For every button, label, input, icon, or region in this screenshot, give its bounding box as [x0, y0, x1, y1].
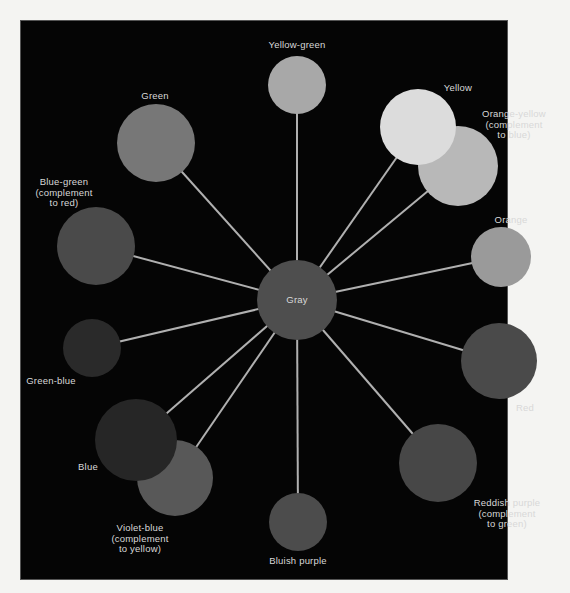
label-line: Green-blue — [26, 375, 76, 386]
node-green — [117, 104, 195, 182]
label-line: Yellow — [444, 82, 472, 93]
node-bluish-purple — [269, 493, 327, 551]
label-line: to yellow) — [119, 543, 161, 554]
label-blue-green: Blue-green(complementto red) — [35, 176, 92, 208]
label-line: to red) — [50, 197, 79, 208]
label-line: Reddish purple — [474, 497, 541, 508]
label-bluish-purple: Bluish purple — [269, 555, 327, 566]
label-red: Red — [516, 402, 534, 413]
node-green-blue — [63, 319, 121, 377]
label-yellow-green: Yellow-green — [269, 39, 326, 50]
label-green-blue: Green-blue — [26, 375, 76, 386]
node-yellow-green — [268, 56, 326, 114]
label-gray: Gray — [286, 294, 307, 305]
label-line: to green) — [487, 518, 527, 529]
label-orange: Orange — [495, 214, 528, 225]
label-line: to blue) — [497, 129, 530, 140]
label-line: (complement — [478, 508, 535, 519]
label-line: (complement — [35, 187, 92, 198]
label-yellow: Yellow — [444, 82, 472, 93]
label-line: (complement — [111, 533, 168, 544]
node-orange — [471, 227, 531, 287]
label-blue: Blue — [78, 461, 98, 472]
node-blue — [95, 399, 177, 481]
label-line: Blue-green — [40, 176, 88, 187]
label-line: Orange-yellow — [482, 108, 546, 119]
label-reddish-purple: Reddish purple(complementto green) — [474, 497, 541, 529]
label-line: Green — [141, 90, 168, 101]
node-red — [461, 323, 537, 399]
center-node: Gray — [257, 260, 337, 340]
label-line: (complement — [485, 119, 542, 130]
label-orange-yellow: Orange-yellow(complementto blue) — [482, 108, 546, 140]
label-violet-blue: Violet-blue(complementto yellow) — [111, 522, 168, 554]
label-line: Bluish purple — [269, 555, 327, 566]
color-complement-diagram: Gray Yellow-greenYellowOrange-yellow(com… — [0, 0, 570, 593]
label-green: Green — [141, 90, 168, 101]
label-line: Yellow-green — [269, 39, 326, 50]
label-line: Red — [516, 402, 534, 413]
label-line: Orange — [495, 214, 528, 225]
node-yellow — [380, 89, 456, 165]
label-line: Blue — [78, 461, 98, 472]
node-blue-green — [57, 207, 135, 285]
label-line: Violet-blue — [117, 522, 164, 533]
node-reddish-purple — [399, 424, 477, 502]
